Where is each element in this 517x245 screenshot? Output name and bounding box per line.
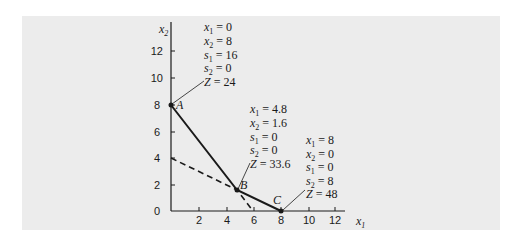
point-b-label: B	[240, 178, 248, 192]
point-c-marker	[279, 209, 284, 214]
x-tick-labels: 2 4 6 8 10 12	[196, 214, 341, 226]
annotation-c: x1 = 8 x2 = 0 s1 = 0 s2 = 8 Z = 48	[305, 133, 337, 201]
svg-text:Z = 33.6: Z = 33.6	[250, 157, 290, 171]
y-axis-label: x2	[158, 22, 168, 38]
svg-text:Z = 24: Z = 24	[204, 75, 235, 89]
y-tick-6: 6	[154, 126, 160, 138]
leader-a	[172, 81, 204, 104]
annotation-b: x1 = 4.8 x2 = 1.6 s1 = 0 s2 = 0 Z = 33.6	[249, 102, 290, 171]
x-tick-2: 2	[196, 214, 202, 226]
x-tick-6: 6	[251, 214, 257, 226]
x-tick-8: 8	[278, 214, 284, 226]
y-tick-0: 0	[154, 205, 160, 217]
point-a-label: A	[175, 98, 184, 112]
y-tick-4: 4	[154, 152, 160, 164]
leader-c	[283, 190, 305, 210]
y-ticks	[171, 51, 175, 185]
lp-feasible-region-chart: 0 2 4 6 8 10 12 2 4 6 8 10 12 x2 x1 A B …	[0, 0, 517, 245]
x-tick-4: 4	[224, 214, 230, 226]
y-tick-8: 8	[154, 99, 160, 111]
point-c-label: C	[273, 193, 282, 207]
x-axis-label: x1	[355, 214, 365, 230]
y-tick-12: 12	[151, 45, 163, 57]
y-tick-10: 10	[151, 72, 163, 84]
y-tick-labels: 0 2 4 6 8 10 12	[151, 45, 163, 217]
x-tick-10: 10	[303, 214, 315, 226]
y-tick-2: 2	[154, 179, 160, 191]
svg-text:Z = 48: Z = 48	[306, 187, 337, 201]
x-tick-12: 12	[329, 214, 341, 226]
annotation-a: x1 = 0 x2 = 8 s1 = 16 s2 = 0 Z = 24	[203, 20, 237, 89]
